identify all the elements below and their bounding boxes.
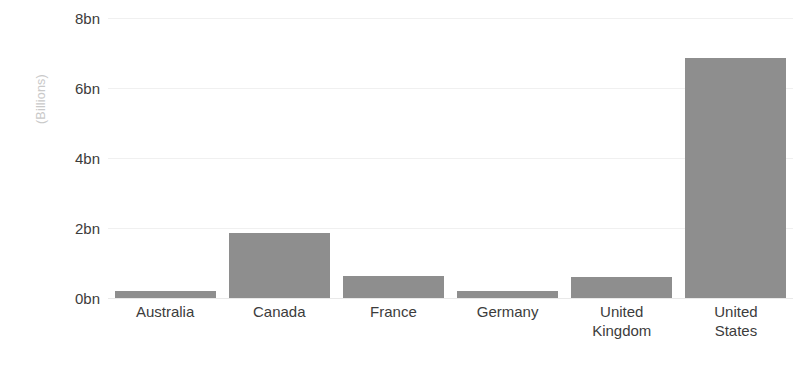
bar[interactable] [343,276,444,298]
bar-slot [457,14,558,298]
x-axis-tick-label: France [336,302,450,321]
bar[interactable] [229,233,330,298]
plot-area [108,14,793,298]
bar[interactable] [685,58,786,298]
x-axis-tick-label: United States [679,302,793,340]
axis-baseline [108,298,793,299]
x-axis-tick-labels: AustraliaCanadaFranceGermanyUnited Kingd… [108,302,793,362]
bar-chart: (Billions) 0bn2bn4bn6bn8bn AustraliaCana… [0,0,801,374]
bar[interactable] [571,277,672,298]
x-axis-tick-label: United Kingdom [565,302,679,340]
bar[interactable] [115,291,216,298]
y-axis-tick-label: 6bn [56,81,100,96]
bar[interactable] [457,291,558,298]
bar-slot [229,14,330,298]
bar-slot [685,14,786,298]
bar-slot [571,14,672,298]
bar-slot [115,14,216,298]
x-axis-tick-label: Canada [222,302,336,321]
bar-slot [343,14,444,298]
y-axis-tick-label: 0bn [56,291,100,306]
x-axis-tick-label: Australia [108,302,222,321]
y-axis-tick-label: 4bn [56,151,100,166]
y-axis-title: (Billions) [34,4,50,124]
x-axis-tick-label: Germany [451,302,565,321]
y-axis-tick-label: 2bn [56,221,100,236]
y-axis-tick-labels: 0bn2bn4bn6bn8bn [52,0,100,374]
y-axis-tick-label: 8bn [56,11,100,26]
